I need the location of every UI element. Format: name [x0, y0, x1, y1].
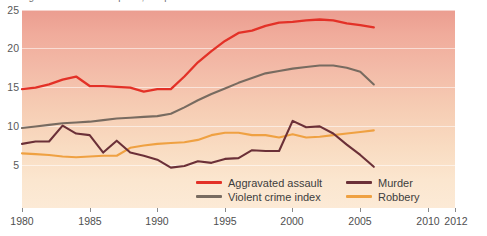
series-line-murder — [22, 121, 374, 168]
series-line-aggravated-assault — [22, 20, 374, 92]
y-tick-label-5: 5 — [1, 160, 19, 170]
legend-entry-robbery[interactable]: Robbery — [346, 190, 420, 203]
legend-label-murder: Murder — [378, 177, 413, 189]
x-tick-label-2005: 2005 — [340, 215, 380, 227]
legend-label-robbery: Robbery — [378, 191, 420, 203]
legend-entry-violent-crime-index[interactable]: Violent crime index — [196, 190, 321, 203]
x-tick-mark-2012 — [455, 208, 456, 212]
y-axis: 25 20 15 10 5 — [0, 0, 19, 236]
y-tick-label-25: 25 — [1, 5, 19, 15]
series-line-robbery — [22, 130, 374, 157]
chart-legend: Aggravated assault Murder Violent crime … — [196, 176, 436, 204]
figure-caption: Figure — crime rates per 1,000 persons — [20, 0, 280, 3]
legend-swatch-violent-crime-index — [196, 195, 222, 198]
legend-entry-aggravated-assault[interactable]: Aggravated assault — [196, 176, 322, 189]
legend-label-aggravated-assault: Aggravated assault — [228, 177, 322, 189]
x-tick-label-2012: 2012 — [436, 215, 476, 227]
legend-swatch-murder — [346, 181, 372, 184]
legend-label-violent-crime-index: Violent crime index — [228, 191, 321, 203]
x-tick-label-1995: 1995 — [205, 215, 245, 227]
series-line-violent-crime-index — [22, 65, 374, 128]
x-tick-mark-1995 — [225, 208, 226, 212]
x-tick-label-2000: 2000 — [272, 215, 312, 227]
y-tick-label-20: 20 — [1, 43, 19, 53]
y-tick-label-10: 10 — [1, 121, 19, 131]
x-tick-mark-2000 — [292, 208, 293, 212]
x-axis: 1980 1985 1990 1995 2000 2005 2010 2012 — [0, 208, 487, 236]
legend-swatch-robbery — [346, 195, 372, 198]
x-tick-label-1985: 1985 — [70, 215, 110, 227]
x-tick-mark-1990 — [157, 208, 158, 212]
x-tick-mark-2010 — [428, 208, 429, 212]
x-tick-label-1990: 1990 — [137, 215, 177, 227]
x-tick-mark-1980 — [22, 208, 23, 212]
x-tick-mark-2005 — [360, 208, 361, 212]
legend-entry-murder[interactable]: Murder — [346, 176, 413, 189]
x-tick-mark-1985 — [90, 208, 91, 212]
y-tick-label-15: 15 — [1, 82, 19, 92]
chart-figure: Figure — crime rates per 1,000 persons 2… — [0, 0, 487, 236]
legend-swatch-aggravated-assault — [196, 181, 222, 184]
x-tick-label-1980: 1980 — [2, 215, 42, 227]
